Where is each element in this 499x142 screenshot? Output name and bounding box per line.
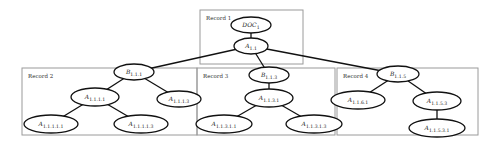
record-4-label: Record 4 [343, 73, 369, 79]
node-a11113: A1.1.1.1.3 [114, 115, 168, 133]
node-b115: B1.1.5 [377, 66, 419, 82]
node-a11111: A1.1.1.1.1 [24, 115, 78, 133]
record-2-label: Record 2 [28, 73, 53, 79]
node-a11531: A1.1.5.3.1 [409, 119, 465, 137]
node-a1111: A1.1.1.1 [71, 88, 119, 106]
node-a11311: A1.1.3.1.1 [196, 115, 252, 133]
node-b111: B1.1.1 [114, 64, 154, 80]
node-a11: A1.1 [234, 38, 268, 54]
nodes-layer: DOC1A1.1B1.1.1A1.1.1.1A1.1.1.3A1.1.1.1.1… [24, 17, 465, 137]
node-a1113: A1.1.1.3 [157, 91, 201, 107]
node-a1131: A1.1.3.1 [245, 89, 293, 107]
node-a1161: A1.1.6.1 [331, 91, 385, 109]
node-b113: B1.1.3 [249, 67, 289, 83]
record-3-label: Record 3 [203, 73, 229, 79]
node-a1153: A1.1.5.3 [413, 92, 461, 110]
record-tree-diagram: Record 1Record 2Record 3Record 4 DOC1A1.… [0, 0, 499, 142]
record-1-label: Record 1 [206, 15, 231, 21]
node-a11313: A1.1.3.1.3 [286, 115, 342, 133]
node-doc1: DOC1 [231, 17, 271, 33]
